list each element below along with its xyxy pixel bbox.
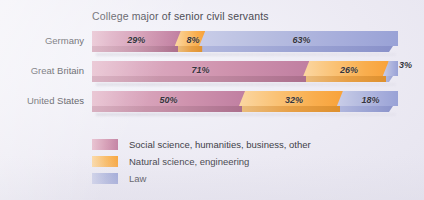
chart-legend: Social science, humanities, business, ot… <box>92 136 311 187</box>
segment-chamfer <box>242 106 343 112</box>
legend-swatch-natural <box>92 156 118 167</box>
stacked-bar: 50%32%18% <box>92 91 398 112</box>
category-label-germany: Germany <box>0 35 84 46</box>
chart-row: Germany29%8%63% <box>0 28 424 58</box>
bar-segment-natural[interactable]: 26% <box>309 61 389 82</box>
legend-swatch-face <box>92 156 118 167</box>
legend-item-natural[interactable]: Natural science, engineering <box>92 153 311 170</box>
chart-row: Great Britain71%26%3% <box>0 58 424 88</box>
segment-value-label: 18% <box>361 95 379 105</box>
legend-label: Law <box>129 173 146 184</box>
bar-segment-law[interactable]: 3% <box>389 61 398 82</box>
segment-chamfer <box>92 106 245 112</box>
bar-segment-social[interactable]: 29% <box>92 31 181 52</box>
bar-segment-social[interactable]: 71% <box>92 61 309 82</box>
segment-value-label: 26% <box>340 65 358 75</box>
legend-label: Social science, humanities, business, ot… <box>129 139 311 150</box>
bar-segment-law[interactable]: 18% <box>343 91 398 112</box>
bar-shadow <box>96 83 396 86</box>
stacked-bar: 71%26%3% <box>92 61 398 82</box>
bar-shadow <box>96 53 396 56</box>
segment-chamfer <box>306 76 389 82</box>
legend-item-social[interactable]: Social science, humanities, business, ot… <box>92 136 311 153</box>
plot-area: Germany29%8%63%Great Britain71%26%3%Unit… <box>0 28 424 128</box>
segment-value-label: 50% <box>159 95 177 105</box>
segment-value-label: 8% <box>186 35 199 45</box>
segment-value-label: 63% <box>293 35 311 45</box>
segment-chamfer <box>178 46 205 52</box>
legend-item-law[interactable]: Law <box>92 170 311 187</box>
stacked-bar: 29%8%63% <box>92 31 398 52</box>
segment-value-label: 3% <box>399 60 412 70</box>
category-label-great-britain: Great Britain <box>0 65 84 76</box>
legend-swatch-face <box>92 139 118 150</box>
segment-value-label: 71% <box>192 65 210 75</box>
bar-shadow <box>96 113 396 116</box>
segment-chamfer <box>340 106 398 112</box>
legend-label: Natural science, engineering <box>129 156 249 167</box>
bar-segment-social[interactable]: 50% <box>92 91 245 112</box>
chart-figure: College major of senior civil servants G… <box>0 0 424 200</box>
category-label-united-states: United States <box>0 95 84 106</box>
chart-title: College major of senior civil servants <box>92 10 269 22</box>
segment-chamfer <box>386 76 398 82</box>
chart-row: United States50%32%18% <box>0 88 424 118</box>
segment-value-label: 32% <box>285 95 303 105</box>
legend-swatch-social <box>92 139 118 150</box>
legend-swatch-face <box>92 173 118 184</box>
segment-chamfer <box>92 76 309 82</box>
bar-segment-natural[interactable]: 32% <box>245 91 343 112</box>
bar-segment-law[interactable]: 63% <box>205 31 398 52</box>
segment-value-label: 29% <box>127 35 145 45</box>
segment-chamfer <box>92 46 181 52</box>
segment-chamfer <box>202 46 398 52</box>
legend-swatch-law <box>92 173 118 184</box>
